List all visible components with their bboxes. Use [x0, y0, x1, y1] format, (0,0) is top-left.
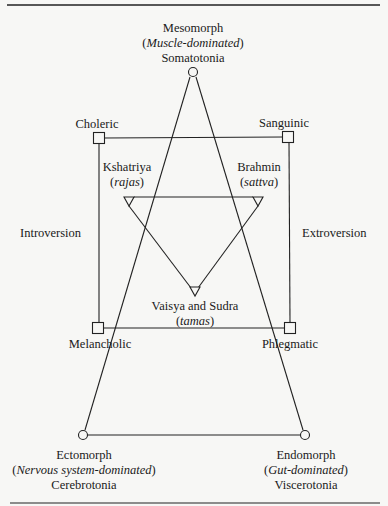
vaisya-sudra-label: Vaisya and Sudra (tamas): [152, 299, 239, 329]
mesomorph-node-icon: [189, 68, 198, 77]
brahmin-guna: (sattva): [237, 175, 281, 190]
kshatriya-node-icon: [124, 197, 134, 206]
endomorph-name: Endomorph: [264, 448, 348, 463]
vaisya-sudra-node-icon: [190, 287, 200, 296]
phlegmatic-label: Phlegmatic: [262, 337, 318, 352]
diagram-canvas: [0, 0, 388, 506]
mesomorph-label: Mesomorph (Muscle-dominated) Somatotonia: [142, 21, 243, 66]
endomorph-temperament: Viscerotonia: [264, 478, 348, 493]
brahmin-node-icon: [253, 197, 263, 206]
vaisya-sudra-name: Vaisya and Sudra: [152, 299, 239, 314]
ectomorph-node-icon: [79, 431, 88, 440]
sanguinic-label: Sanguinic: [259, 116, 309, 131]
vaisya-sudra-guna: (tamas): [152, 314, 239, 329]
ectomorph-qualifier: (Nervous system-dominated): [12, 463, 155, 478]
ectomorph-label: Ectomorph (Nervous system-dominated) Cer…: [12, 448, 155, 493]
endomorph-node-icon: [301, 431, 310, 440]
ectomorph-temperament: Cerebrotonia: [12, 478, 155, 493]
mesomorph-name: Mesomorph: [142, 21, 243, 36]
melancholic-label: Melancholic: [69, 337, 131, 352]
melancholic-node-icon: [93, 323, 104, 334]
endomorph-qualifier: (Gut-dominated): [264, 463, 348, 478]
kshatriya-guna: (rajas): [103, 175, 152, 190]
mesomorph-qualifier: (Muscle-dominated): [142, 36, 243, 51]
caste-triangle: [129, 197, 258, 288]
mesomorph-temperament: Somatotonia: [142, 51, 243, 66]
brahmin-name: Brahmin: [237, 160, 281, 175]
endomorph-label: Endomorph (Gut-dominated) Viscerotonia: [264, 448, 348, 493]
sanguinic-node-icon: [283, 132, 294, 143]
kshatriya-name: Kshatriya: [103, 160, 152, 175]
choleric-label: Choleric: [75, 117, 118, 132]
ectomorph-name: Ectomorph: [12, 448, 155, 463]
choleric-node-icon: [94, 133, 105, 144]
kshatriya-label: Kshatriya (rajas): [103, 160, 152, 190]
phlegmatic-node-icon: [285, 323, 296, 334]
brahmin-label: Brahmin (sattva): [237, 160, 281, 190]
introversion-label: Introversion: [20, 226, 81, 241]
extroversion-label: Extroversion: [302, 226, 367, 241]
